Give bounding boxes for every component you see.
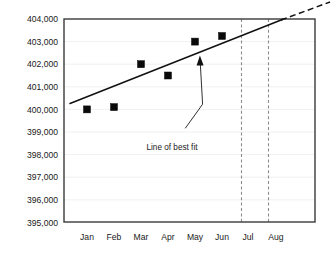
x-tick-label-jan: Jan (80, 232, 94, 242)
y-tick-label-398000: 398,000 (27, 150, 58, 160)
y-tick-label-403000: 403,000 (27, 37, 58, 47)
y-tick-label-401000: 401,000 (27, 82, 58, 92)
y-tick-label-395000: 395,000 (27, 218, 58, 228)
data-point-may (192, 38, 199, 45)
data-point-apr (165, 72, 172, 79)
x-tick-label-jun: Jun (215, 232, 229, 242)
x-tick-label-mar: Mar (134, 232, 149, 242)
x-tick-label-feb: Feb (107, 232, 122, 242)
y-tick-label-402000: 402,000 (27, 59, 58, 69)
y-tick-label-397000: 397,000 (27, 172, 58, 182)
y-tick-label-400000: 400,000 (27, 105, 58, 115)
x-tick-label-may: May (187, 232, 204, 242)
x-tick-label-aug: Aug (268, 232, 284, 242)
annotation-line-of-best-fit: Line of best fit (147, 143, 199, 152)
y-tick-label-404000: 404,000 (27, 14, 58, 24)
y-tick-label-399000: 399,000 (27, 127, 58, 137)
data-point-jan (84, 106, 91, 113)
x-tick-label-jul: Jul (243, 232, 254, 242)
data-point-feb (111, 104, 118, 111)
x-tick-label-apr: Apr (161, 232, 175, 242)
y-tick-label-396000: 396,000 (27, 195, 58, 205)
chart-container: Line of best fit 404,000 403,000 402,000… (0, 0, 335, 254)
line-of-best-fit-chart: Line of best fit 404,000 403,000 402,000… (0, 0, 335, 254)
data-point-jun (219, 33, 226, 40)
data-point-mar (138, 61, 145, 68)
